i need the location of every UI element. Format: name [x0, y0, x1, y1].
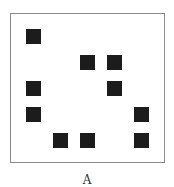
- filled-square: [107, 55, 122, 70]
- filled-square: [26, 29, 41, 44]
- filled-square: [26, 81, 41, 96]
- filled-square: [107, 81, 122, 96]
- filled-square: [53, 133, 68, 148]
- filled-square: [80, 55, 95, 70]
- figure-caption: A: [0, 173, 174, 187]
- filled-square: [134, 107, 149, 122]
- filled-square: [26, 107, 41, 122]
- filled-square: [80, 133, 95, 148]
- filled-square: [134, 133, 149, 148]
